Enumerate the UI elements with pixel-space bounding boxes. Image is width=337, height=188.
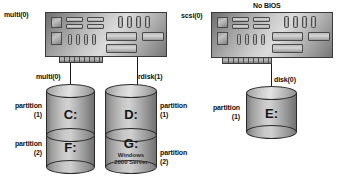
- card-slot: [272, 44, 303, 53]
- card-capacitor: [253, 34, 257, 45]
- card-resistor: [66, 24, 83, 29]
- card-resistor: [232, 17, 249, 22]
- card-capacitor: [311, 16, 316, 28]
- volume-label-g: G:: [105, 137, 157, 151]
- card-resistor: [253, 24, 270, 29]
- card-capacitor: [118, 16, 123, 28]
- scsi-controller-card: [211, 12, 333, 58]
- card-chip: [217, 32, 228, 45]
- card-resistor: [87, 17, 104, 22]
- card-capacitor: [84, 34, 88, 45]
- cylinder-bottom: [46, 160, 95, 174]
- card-resistor: [253, 17, 270, 22]
- card-capacitor: [92, 34, 96, 45]
- partition-label-d-line2: (1): [160, 111, 168, 120]
- card-capacitor: [136, 16, 141, 28]
- cylinder-bottom: [246, 125, 297, 139]
- card-capacitor: [245, 34, 249, 45]
- cylinder-top: [46, 84, 95, 98]
- partition-label-c-line2: (1): [0, 111, 42, 120]
- card-resistor: [232, 24, 249, 29]
- no-bios-banner: No BIOS: [253, 2, 281, 11]
- card-slot: [272, 32, 303, 41]
- card-capacitor: [145, 16, 150, 28]
- partition-label-e-line2: (1): [196, 113, 240, 122]
- volume-label-e: E:: [246, 107, 297, 121]
- port-label-rdisk-1: rdisk(1): [138, 73, 163, 82]
- disk-c-f: C: F:: [46, 84, 95, 174]
- partition-label-g-line2: (2): [160, 158, 168, 167]
- adapter-label-multi: multi(0): [4, 11, 28, 20]
- diagram-canvas: multi(0) multi(0) rdisk(1) C:: [0, 0, 337, 188]
- cylinder-top: [246, 86, 297, 100]
- card-capacitor: [127, 16, 132, 28]
- volume-label-c: C:: [46, 108, 95, 122]
- partition-label-c-line1: partition: [0, 102, 42, 111]
- card-chip: [217, 17, 228, 28]
- partition-label-d-line1: partition: [160, 102, 187, 111]
- volume-label-d: D:: [105, 108, 157, 122]
- volume-os-label: Windows 2000 Server: [105, 152, 157, 166]
- card-resistor: [87, 24, 104, 29]
- partition-label-f-line1: partition: [0, 140, 42, 149]
- card-slot: [106, 44, 137, 53]
- card-slot: [308, 32, 330, 41]
- partition-label-g-line1: partition: [160, 149, 187, 158]
- card-resistor: [66, 17, 83, 22]
- card-capacitor: [76, 34, 80, 45]
- port-label-multi-0: multi(0): [36, 73, 60, 82]
- card-capacitor: [261, 34, 265, 45]
- adapter-label-scsi: scsi(0): [181, 12, 202, 21]
- card-capacitor: [302, 16, 307, 28]
- partition-label-f-line2: (2): [0, 149, 42, 158]
- card-bus-connector: [222, 58, 272, 64]
- disk-d-g: D: G: Windows 2000 Server: [105, 84, 157, 174]
- card-capacitor: [293, 16, 298, 28]
- card-slot: [142, 32, 164, 41]
- partition-label-e-line1: partition: [196, 104, 240, 113]
- card-chip: [51, 32, 62, 45]
- port-label-disk-0: disk(0): [274, 76, 296, 85]
- card-capacitor: [68, 34, 72, 45]
- ide-controller-card: [45, 12, 167, 57]
- card-capacitor: [237, 34, 241, 45]
- card-slot: [106, 32, 137, 41]
- card-chip: [51, 17, 62, 28]
- card-bus-connector: [59, 57, 103, 63]
- disk-e: E:: [246, 86, 297, 146]
- card-capacitor: [284, 16, 289, 28]
- cylinder-top: [105, 84, 157, 98]
- volume-label-f: F:: [46, 141, 95, 155]
